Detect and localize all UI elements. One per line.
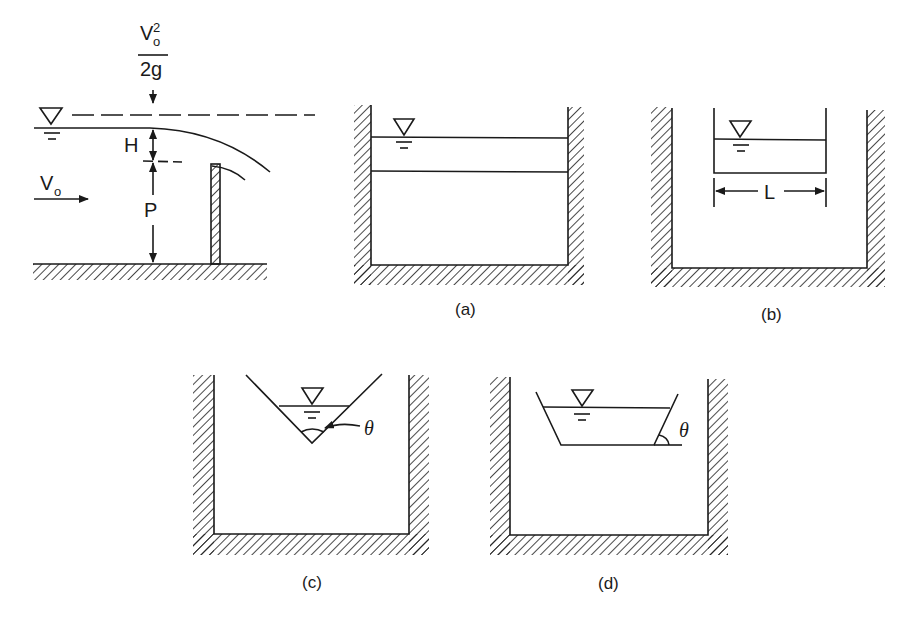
right-wall (409, 375, 429, 555)
panel-caption: (c) (302, 573, 322, 592)
right-wall (867, 110, 885, 287)
svg-text:o: o (153, 34, 160, 49)
panel-caption: (d) (598, 574, 619, 593)
floor (193, 534, 429, 555)
svg-text:2: 2 (153, 20, 160, 35)
panel-caption: (a) (455, 300, 476, 319)
left-wall (490, 377, 510, 555)
nappe-lower-dashed (143, 161, 182, 162)
left-wall (354, 105, 371, 285)
svg-text:2g: 2g (140, 58, 162, 80)
channel-bed (33, 264, 267, 280)
water-surface-line (543, 407, 670, 408)
water-surface-line (371, 137, 568, 138)
panel-caption: (b) (761, 305, 782, 324)
svg-text:V: V (140, 22, 154, 44)
panel-b-rectangular-contracted: L (b) (651, 107, 885, 324)
panel-a-rectangular-suppressed: (a) (354, 105, 584, 319)
water-surface-icon (40, 108, 62, 139)
velocity-head-label: V o 2 2g (138, 20, 168, 103)
weir-profile: V o 2 2g H P V o (33, 20, 315, 280)
left-wall (651, 107, 672, 287)
weir-crest-line (371, 171, 568, 172)
left-wall (193, 375, 214, 555)
svg-text:L: L (764, 181, 775, 203)
svg-text:V: V (40, 172, 54, 194)
weir-diagram: V o 2 2g H P V o (0, 0, 921, 618)
svg-text:H: H (124, 134, 138, 156)
floor (354, 265, 584, 285)
svg-text:o: o (54, 184, 61, 199)
floor (651, 268, 885, 287)
floor (490, 535, 728, 555)
panel-c-v-notch: θ (c) (193, 374, 429, 592)
panel-d-trapezoidal: θ (d) (490, 377, 728, 593)
svg-text:P: P (144, 199, 157, 221)
water-surface-line (714, 139, 826, 140)
svg-text:θ: θ (364, 417, 374, 439)
svg-text:θ: θ (679, 419, 689, 441)
nappe-upper-surface (34, 128, 270, 172)
weir-plate (211, 164, 220, 264)
right-wall (708, 379, 728, 555)
right-wall (568, 107, 584, 285)
